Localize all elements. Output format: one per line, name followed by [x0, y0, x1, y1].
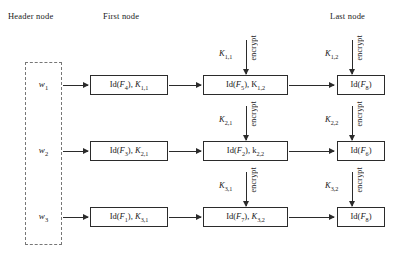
key-label-row3-last: K3,2 [325, 180, 338, 192]
diagram-canvas: Header node First node Last node w1 w2 w… [0, 0, 406, 257]
node-label-row2-last: Id(F6) [350, 145, 371, 157]
encrypt-arrow-row1-last [352, 40, 353, 74]
encrypt-label-row2-last: encrypt [355, 101, 364, 126]
node-label-row1-last: Id(F8) [350, 79, 371, 91]
node-label-row1-first: Id(F4), K1,1 [110, 79, 149, 91]
node-label-row3-last: Id(F8) [350, 211, 371, 223]
weight-label-w2: w2 [25, 145, 62, 157]
node-box-row2-first: Id(F3), K2,1 [90, 141, 168, 161]
arrow-middle-to-last-row2 [289, 151, 334, 152]
encrypt-arrow-row1-middle [246, 40, 247, 74]
encrypt-arrow-row2-middle [246, 106, 247, 140]
node-label-row3-first: Id(F1), K3,1 [110, 211, 149, 223]
node-box-row1-middle: Id(F5), K1,2 [203, 75, 288, 95]
node-label-row2-first: Id(F3), K2,1 [110, 145, 149, 157]
arrow-header-to-first-row3 [63, 217, 88, 218]
node-box-row2-last: Id(F6) [337, 141, 385, 161]
node-box-row3-first: Id(F1), K3,1 [90, 207, 168, 227]
node-label-row2-middle: Id(F2), k2,2 [227, 145, 264, 157]
weight-subscript: 2 [45, 150, 48, 157]
node-box-row3-last: Id(F8) [337, 207, 385, 227]
node-label-row1-middle: Id(F5), K1,2 [226, 79, 265, 91]
key-label-row2-last: K2,2 [325, 114, 338, 126]
encrypt-label-row1-middle: encrypt [249, 35, 258, 60]
column-title-header-node: Header node [8, 11, 53, 21]
node-box-row1-last: Id(F8) [337, 75, 385, 95]
column-title-last-node: Last node [330, 11, 365, 21]
key-label-row3-middle: K3,1 [219, 180, 232, 192]
node-box-row1-first: Id(F4), K1,1 [90, 75, 168, 95]
encrypt-arrow-row3-last [352, 172, 353, 206]
arrow-header-to-first-row1 [63, 85, 88, 86]
column-title-first-node: First node [103, 11, 139, 21]
encrypt-arrow-row3-middle [246, 172, 247, 206]
node-label-row3-middle: Id(F7), K3,2 [226, 211, 265, 223]
weight-subscript: 1 [45, 84, 48, 91]
weight-subscript: 3 [45, 216, 48, 223]
arrow-middle-to-last-row1 [289, 85, 334, 86]
weight-label-w3: w3 [25, 211, 62, 223]
key-label-row1-last: K1,2 [325, 48, 338, 60]
key-label-row2-middle: K2,1 [219, 114, 232, 126]
arrow-first-to-middle-row1 [169, 85, 201, 86]
key-label-row1-middle: K1,1 [219, 48, 232, 60]
weight-label-w1: w1 [25, 79, 62, 91]
arrow-first-to-middle-row2 [169, 151, 201, 152]
encrypt-label-row1-last: encrypt [355, 35, 364, 60]
node-box-row3-middle: Id(F7), K3,2 [203, 207, 288, 227]
arrow-middle-to-last-row3 [289, 217, 334, 218]
arrow-header-to-first-row2 [63, 151, 88, 152]
encrypt-label-row3-last: encrypt [355, 167, 364, 192]
encrypt-arrow-row2-last [352, 106, 353, 140]
arrow-first-to-middle-row3 [169, 217, 201, 218]
node-box-row2-middle: Id(F2), k2,2 [203, 141, 288, 161]
encrypt-label-row2-middle: encrypt [249, 101, 258, 126]
encrypt-label-row3-middle: encrypt [249, 167, 258, 192]
